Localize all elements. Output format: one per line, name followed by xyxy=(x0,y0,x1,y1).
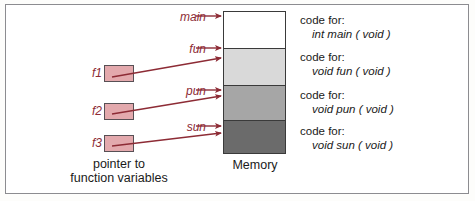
pointer-label-f2: f2 xyxy=(80,104,102,118)
pointer-label-f1: f1 xyxy=(80,66,102,80)
code-signature-sun: void sun ( void ) xyxy=(300,138,393,152)
code-heading-pun: code for: xyxy=(300,89,345,101)
code-heading-main: code for: xyxy=(300,14,345,26)
pointer-caption-line1: pointer to xyxy=(93,157,145,171)
function-label-pun: pun xyxy=(160,84,206,98)
memory-block-fun xyxy=(224,49,285,86)
code-entry-main: code for: int main ( void ) xyxy=(300,13,391,41)
code-heading-fun: code for: xyxy=(300,51,345,63)
memory-column xyxy=(223,11,286,154)
figure-container: Memory f1 f2 f3 pointer to function vari… xyxy=(0,0,475,201)
code-signature-fun: void fun ( void ) xyxy=(300,64,391,78)
pointer-caption: pointer to function variables xyxy=(48,157,190,185)
pointer-box-f1 xyxy=(104,65,134,82)
function-label-main: main xyxy=(160,10,206,24)
code-entry-fun: code for: void fun ( void ) xyxy=(300,50,391,78)
code-entry-sun: code for: void sun ( void ) xyxy=(300,124,393,152)
memory-caption: Memory xyxy=(199,158,311,172)
code-signature-pun: void pun ( void ) xyxy=(300,102,394,116)
pointer-box-f2 xyxy=(104,103,134,120)
pointer-box-f3 xyxy=(104,135,134,152)
function-label-sun: sun xyxy=(160,120,206,134)
memory-block-pun xyxy=(224,86,285,121)
pointer-label-f3: f3 xyxy=(80,136,102,150)
function-label-fun: fun xyxy=(160,42,206,56)
pointer-caption-line2: function variables xyxy=(70,171,167,185)
memory-block-main xyxy=(224,12,285,49)
code-heading-sun: code for: xyxy=(300,125,345,137)
memory-block-sun xyxy=(224,121,285,153)
code-entry-pun: code for: void pun ( void ) xyxy=(300,88,394,116)
code-signature-main: int main ( void ) xyxy=(300,27,391,41)
